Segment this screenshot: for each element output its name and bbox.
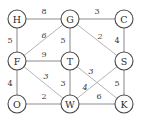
node-c[interactable]: C	[115, 10, 133, 28]
node-label-t: T	[67, 56, 74, 67]
node-label-o: O	[13, 99, 21, 110]
edge-weight-w-s: 3	[88, 67, 93, 76]
node-label-g: G	[66, 14, 74, 25]
edge-weight-t-w: 3	[60, 79, 65, 88]
edge-weight-t-k: 4	[81, 83, 87, 92]
edge-weight-g-s: 2	[96, 32, 102, 41]
node-f[interactable]: F	[8, 52, 26, 70]
node-label-s: S	[121, 56, 128, 67]
edge-weight-h-g: 8	[41, 7, 46, 16]
node-w[interactable]: W	[61, 95, 79, 113]
edge-weight-g-t: 5	[60, 36, 65, 45]
node-label-c: C	[120, 14, 127, 25]
edge-weight-f-t: 9	[41, 50, 46, 59]
edge-weight-h-f: 5	[7, 36, 12, 45]
graph-diagram: 8356524943343526 HGCFTSOWK	[0, 0, 141, 122]
node-s[interactable]: S	[115, 52, 133, 70]
node-h[interactable]: H	[8, 10, 26, 28]
edge-weight-f-w: 3	[43, 72, 48, 81]
edge-weight-s-k: 5	[114, 79, 119, 88]
node-label-k: K	[120, 99, 128, 110]
edge-weight-g-c: 3	[94, 7, 99, 16]
node-k[interactable]: K	[115, 95, 133, 113]
graph-canvas: 8356524943343526 HGCFTSOWK	[0, 0, 141, 122]
node-label-f: F	[14, 56, 21, 67]
node-g[interactable]: G	[61, 10, 79, 28]
node-label-h: H	[13, 14, 21, 25]
edge-weight-o-w: 2	[41, 92, 46, 101]
edge-weight-f-o: 4	[7, 79, 12, 88]
node-t[interactable]: T	[61, 52, 79, 70]
node-o[interactable]: O	[8, 95, 26, 113]
edge-weight-w-k: 6	[96, 92, 101, 101]
edge-weight-f-g: 6	[41, 31, 46, 40]
edge-weight-c-s: 4	[114, 36, 119, 45]
node-label-w: W	[65, 99, 75, 110]
